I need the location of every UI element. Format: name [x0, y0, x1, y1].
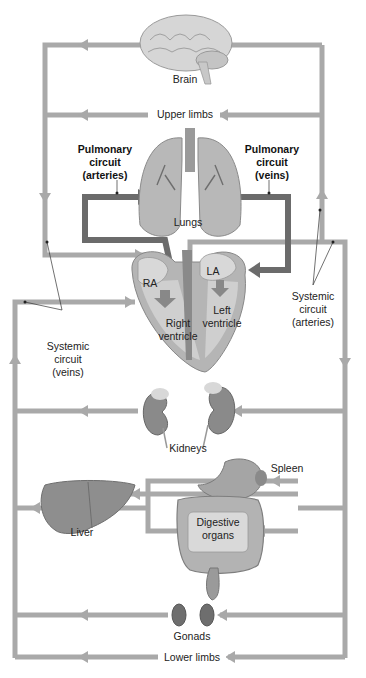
arrow-right-icon — [125, 296, 135, 308]
arrow-left-icon — [78, 405, 88, 417]
arrow-left-icon — [225, 651, 235, 663]
label-pulm-arteries-2: circuit — [89, 156, 121, 168]
arrow-left-icon — [78, 609, 88, 621]
arrow-left-icon — [78, 39, 88, 51]
arrow-left-icon — [248, 262, 260, 278]
label-kidneys: Kidneys — [169, 442, 206, 454]
arrow-left-icon — [78, 651, 88, 663]
label-pulm-veins-3: (veins) — [255, 169, 289, 181]
label-left-ventricle-1: Left — [213, 304, 231, 316]
arrow-left-icon — [78, 109, 88, 121]
label-sys-veins-3: (veins) — [52, 366, 84, 378]
label-right-ventricle-1: Right — [166, 317, 191, 329]
label-digestive-2: organs — [202, 529, 234, 541]
label-upper-limbs: Upper limbs — [157, 108, 213, 120]
label-la: LA — [207, 265, 220, 277]
label-pulm-veins-2: circuit — [256, 156, 288, 168]
label-lower-limbs: Lower limbs — [164, 651, 220, 663]
circulation-diagram: Brain Upper limbs Pulmonary circuit (art… — [0, 0, 366, 678]
label-left-ventricle-2: ventricle — [202, 317, 241, 329]
label-pulm-arteries-3: (arteries) — [83, 169, 128, 181]
arrow-left-icon — [270, 475, 280, 487]
label-pulm-veins-1: Pulmonary — [245, 143, 299, 155]
label-sys-arteries-1: Systemic — [292, 290, 335, 302]
kidneys-icon — [143, 382, 234, 448]
arrow-down-icon — [39, 193, 51, 203]
label-sys-arteries-2: circuit — [299, 303, 327, 315]
label-spleen: Spleen — [271, 462, 304, 474]
arrow-up-icon — [9, 354, 21, 364]
intestines-icon — [177, 496, 264, 600]
gonads-icon — [172, 604, 214, 626]
label-liver: Liver — [71, 526, 94, 538]
label-pulm-arteries-1: Pulmonary — [78, 143, 132, 155]
label-ra: RA — [143, 277, 158, 289]
arrow-left-icon — [217, 609, 227, 621]
label-digestive-1: Digestive — [196, 516, 239, 528]
label-lungs: Lungs — [174, 216, 203, 228]
label-gonads: Gonads — [174, 630, 211, 642]
label-sys-veins-1: Systemic — [47, 340, 90, 352]
arrow-up-icon — [316, 189, 328, 199]
label-brain: Brain — [173, 73, 198, 85]
label-right-ventricle-2: ventricle — [158, 330, 197, 342]
arrow-left-icon — [30, 502, 40, 514]
label-sys-veins-2: circuit — [54, 353, 82, 365]
spleen-icon — [255, 470, 267, 486]
label-sys-arteries-3: (arteries) — [292, 316, 334, 328]
arrow-down-icon — [339, 358, 351, 368]
